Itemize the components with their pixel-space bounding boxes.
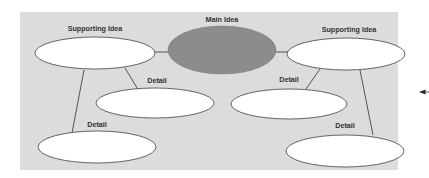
detail-right-lower-label: Detail	[335, 121, 355, 130]
detail-left-lower-label: Detail	[87, 120, 107, 129]
supporting-idea-right-oval	[287, 38, 405, 70]
detail-right-lower-oval	[286, 135, 404, 167]
supporting-idea-left-oval	[35, 37, 155, 69]
main-idea-web-diagram: Main Idea Supporting Idea Supporting Ide…	[0, 0, 429, 178]
detail-right-upper-label: Detail	[279, 75, 299, 84]
detail-right-upper-oval	[231, 89, 347, 119]
main-idea-oval	[168, 26, 276, 74]
supporting-idea-left-label: Supporting Idea	[68, 24, 124, 33]
supporting-idea-right-label: Supporting Idea	[322, 25, 378, 34]
detail-left-upper-oval	[96, 88, 214, 118]
main-idea-label: Main Idea	[206, 15, 240, 24]
detail-left-upper-label: Detail	[147, 76, 167, 85]
detail-left-lower-oval	[38, 131, 156, 163]
